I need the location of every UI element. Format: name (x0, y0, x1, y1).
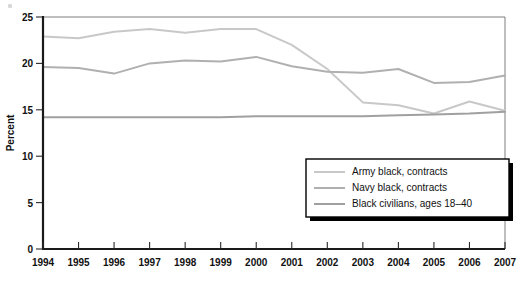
x-tick-label-2003: 2003 (352, 257, 375, 268)
x-tick-label-2001: 2001 (281, 257, 304, 268)
series-line-1 (43, 57, 505, 83)
x-tick-label-1996: 1996 (103, 257, 126, 268)
line-chart: 25 20 15 10 5 0 Percent 1994199519961997… (0, 0, 526, 283)
y-tick-label-25: 25 (22, 12, 34, 23)
y-tick-label-10: 10 (22, 151, 34, 162)
x-tick-label-2007: 2007 (494, 257, 517, 268)
series-group (43, 29, 505, 117)
y-tick-label-0: 0 (27, 244, 33, 255)
x-tick-label-1998: 1998 (174, 257, 197, 268)
y-tick-label-20: 20 (22, 58, 34, 69)
x-tick-label-1999: 1999 (210, 257, 233, 268)
x-tick-label-1994: 1994 (32, 257, 55, 268)
x-tick-label-1995: 1995 (67, 257, 90, 268)
x-tick-label-2002: 2002 (316, 257, 339, 268)
x-tick-label-2000: 2000 (245, 257, 268, 268)
legend[interactable]: Army black, contracts Navy black, contra… (306, 159, 513, 221)
x-axis-group: 1994199519961997199819992000200120022003… (32, 242, 517, 268)
x-tick-label-2005: 2005 (423, 257, 446, 268)
scan-artifact-speck (8, 4, 12, 8)
legend-label-civilians: Black civilians, ages 18–40 (352, 198, 473, 209)
x-tick-label-1997: 1997 (138, 257, 161, 268)
x-tick-label-2006: 2006 (458, 257, 481, 268)
y-tick-label-15: 15 (22, 105, 34, 116)
y-axis-labels: 25 20 15 10 5 0 (22, 12, 34, 255)
legend-label-navy: Navy black, contracts (352, 182, 447, 193)
legend-label-army: Army black, contracts (352, 166, 448, 177)
y-axis-title: Percent (5, 114, 16, 151)
series-line-0 (43, 29, 505, 113)
figure-canvas: 25 20 15 10 5 0 Percent 1994199519961997… (0, 0, 526, 283)
x-tick-label-2004: 2004 (387, 257, 410, 268)
y-tick-label-5: 5 (27, 198, 33, 209)
